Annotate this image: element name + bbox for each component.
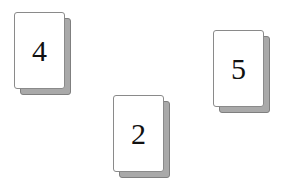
card-face: 2 xyxy=(113,95,164,172)
card-face: 5 xyxy=(213,30,264,107)
card-number: 5 xyxy=(231,54,246,84)
card-2[interactable]: 2 xyxy=(113,95,170,178)
card-number: 2 xyxy=(131,119,146,149)
card-face: 4 xyxy=(14,12,65,89)
card-number: 4 xyxy=(32,36,47,66)
card-4[interactable]: 4 xyxy=(14,12,71,95)
card-5[interactable]: 5 xyxy=(213,30,270,113)
